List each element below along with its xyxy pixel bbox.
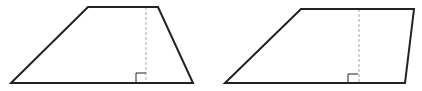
right-angle-marker [136, 73, 146, 83]
diagram-canvas [0, 0, 422, 91]
trapezoid-left [11, 7, 193, 83]
trapezoid-outline [11, 7, 193, 83]
trapezoid-outline [225, 9, 414, 83]
trapezoid-right [225, 9, 414, 84]
